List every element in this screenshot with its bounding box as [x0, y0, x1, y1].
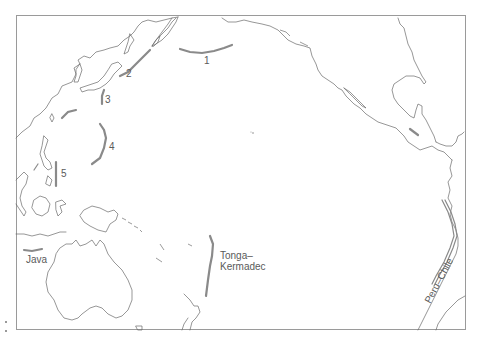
trench-3-japan	[102, 90, 104, 104]
edge-mark	[5, 330, 7, 332]
trench-label-tonga-line2: Kermadec	[220, 261, 266, 272]
pacific-trench-map	[0, 0, 481, 346]
coastline-se-asia	[16, 172, 28, 216]
coastline-sakhalin	[124, 34, 134, 54]
coastline-korea	[74, 64, 82, 82]
trench-label-java: Java	[26, 254, 47, 265]
trench-label-5: 5	[61, 168, 67, 179]
coastline-north-america	[222, 18, 452, 160]
hawaii-dot	[251, 132, 252, 133]
trench-label-tonga-line1: Tonga–	[220, 250, 266, 261]
map-frame	[17, 16, 466, 330]
coastline-philippines	[40, 136, 52, 186]
coastline-sulawesi	[56, 200, 66, 216]
coastline-gulf-mexico	[392, 18, 436, 142]
islands-solomon	[122, 218, 142, 232]
trench-ryukyu	[62, 110, 76, 118]
coastline-borneo	[32, 196, 50, 216]
trench-1-aleutian	[180, 45, 232, 53]
trench-java	[24, 249, 42, 251]
coastline-new-guinea	[80, 206, 118, 232]
coastline-java	[16, 232, 66, 236]
coastline-taiwan	[50, 114, 54, 122]
coastline-south-america	[418, 160, 458, 330]
coastline-kamchatka	[152, 17, 178, 46]
trench-philippine-west	[34, 164, 38, 170]
coastline-south-america-east	[436, 296, 465, 330]
trench-middle-america	[410, 129, 418, 135]
coastline-australia	[46, 240, 132, 320]
islands-alaska	[280, 30, 308, 46]
coastline-japan	[80, 62, 122, 92]
trench-label-1: 1	[204, 55, 210, 66]
trench-tonga-kermadec	[206, 236, 213, 296]
trench-label-2: 2	[126, 68, 132, 79]
coastline-new-zealand	[182, 294, 200, 330]
trench-4-mariana	[92, 124, 106, 164]
coastline-asia	[16, 17, 178, 138]
trench-label-3: 3	[105, 94, 111, 105]
edge-mark	[5, 321, 7, 323]
coastline-central-america	[436, 132, 464, 146]
trench-label-4: 4	[109, 141, 115, 152]
trench-label-tonga: Tonga– Kermadec	[220, 250, 266, 272]
hawaii-dot	[252, 132, 254, 134]
islands-vanuatu	[156, 244, 192, 262]
